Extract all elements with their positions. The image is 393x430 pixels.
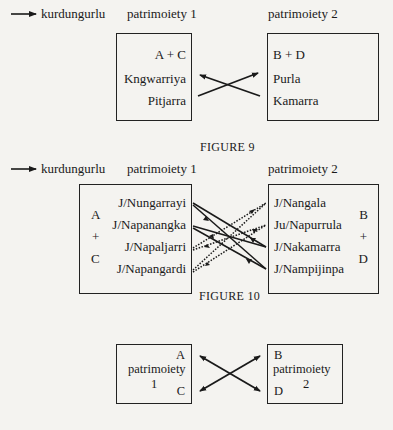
box-title: A + C	[155, 47, 186, 63]
subsection-napaljarri: J/Napaljarri	[125, 239, 186, 255]
header-patrimoiety-1: patrimoiety 1	[127, 6, 197, 22]
subsection-kngwarriya: Kngwarriya	[124, 71, 186, 87]
section-label-c: C	[177, 384, 185, 399]
subsection-napurrula: Ju/Napurrula	[274, 217, 342, 233]
box-title: B + D	[273, 47, 305, 63]
patrimoiety-2-box: B + D Purla Kamarra	[267, 33, 379, 121]
patrimoiety-1-box: A + C Kngwarriya Pitjarra	[116, 33, 192, 121]
header-patrimoiety-2: patrimoiety 2	[268, 6, 338, 22]
section-plus: +	[360, 229, 367, 245]
figure-10-caption: FIGURE 10	[199, 289, 260, 304]
patrimoiety-number: 1	[151, 377, 157, 392]
section-label-b: B	[359, 207, 368, 223]
section-label-c: C	[91, 251, 100, 267]
patrimoiety-2-box: B patrimoiety 2 D	[267, 344, 343, 404]
section-label-d: D	[274, 384, 283, 399]
subsection-nangala: J/Nangala	[274, 195, 326, 211]
section-plus: +	[92, 229, 99, 245]
subsection-pitjarra: Pitjarra	[148, 93, 186, 109]
patrimoiety-number: 2	[303, 377, 309, 392]
legend-label: kurdungurlu	[41, 161, 105, 177]
header-patrimoiety-2: patrimoiety 2	[268, 161, 338, 177]
patrimoiety-1-box: A patrimoiety 1 C	[116, 344, 192, 404]
subsection-kamarra: Kamarra	[273, 93, 318, 109]
section-label-a: A	[176, 348, 185, 363]
subsection-purla: Purla	[273, 71, 300, 87]
subsection-nungarrayi: J/Nungarrayi	[118, 195, 186, 211]
patrimoiety-label: patrimoiety	[128, 362, 186, 377]
section-label-a: A	[91, 207, 100, 223]
figure-9-caption: FIGURE 9	[200, 140, 255, 155]
patrimoiety-2-box: J/Nangala Ju/Napurrula J/Nakamarra J/Nam…	[268, 184, 379, 294]
subsection-napangardi: J/Napangardi	[117, 261, 186, 277]
patrimoiety-label: patrimoiety	[273, 362, 331, 377]
section-label-d: D	[359, 251, 368, 267]
header-patrimoiety-1: patrimoiety 1	[127, 161, 197, 177]
subsection-nampijinpa: J/Nampijinpa	[274, 261, 344, 277]
patrimoiety-1-box: A + C J/Nungarrayi J/Napanangka J/Napalj…	[79, 184, 192, 294]
subsection-nakamarra: J/Nakamarra	[274, 239, 340, 255]
legend-label: kurdungurlu	[41, 6, 105, 22]
subsection-napanangka: J/Napanangka	[112, 217, 186, 233]
section-label-b: B	[274, 348, 282, 363]
